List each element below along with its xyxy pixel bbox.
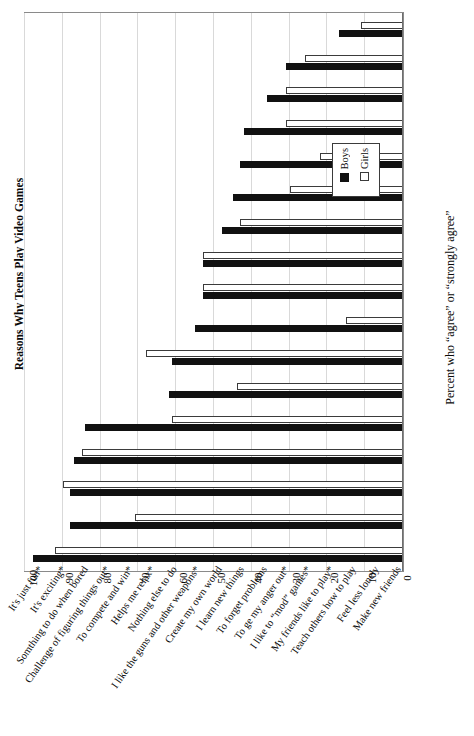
category-label-slot: Make new friends (383, 560, 405, 736)
bar-girls (172, 416, 403, 423)
bar-group (25, 440, 403, 473)
bar-boys (203, 260, 403, 267)
bar-group (25, 111, 403, 144)
bar-boys (339, 30, 403, 37)
bar-girls (346, 317, 403, 324)
legend-label-boys: Boys (339, 148, 350, 170)
bar-girls (286, 120, 403, 127)
bar-girls (240, 219, 403, 226)
bar-group (25, 276, 403, 309)
plot (24, 12, 404, 572)
legend-label-girls: Girls (359, 148, 370, 169)
chart-figure: Reasons Why Teens Play Video Games Perce… (0, 0, 474, 736)
bar-girls (135, 514, 403, 521)
bar-girls (286, 88, 403, 95)
bar-boys (172, 358, 403, 365)
bar-girls (63, 481, 403, 488)
plot-area (24, 12, 404, 572)
bar-boys (70, 522, 403, 529)
bar-boys (85, 424, 403, 431)
bar-group (25, 210, 403, 243)
bar-girls (55, 547, 403, 554)
value-axis-baseline (402, 13, 403, 571)
bar-boys (267, 96, 403, 103)
bar-group (25, 341, 403, 374)
bar-boys (70, 489, 403, 496)
bar-boys (195, 325, 403, 332)
bar-group (25, 505, 403, 538)
bar-groups (25, 13, 403, 571)
bar-girls (146, 350, 403, 357)
legend-item-girls: Girls (359, 148, 370, 194)
bar-girls (203, 252, 403, 259)
value-axis-title: Percent who “agree” or “strongly agree” (443, 163, 458, 453)
bar-group (25, 473, 403, 506)
bar-boys (286, 63, 403, 70)
legend: Boys Girls (332, 143, 380, 197)
legend-item-boys: Boys (339, 148, 350, 194)
bar-boys (203, 292, 403, 299)
legend-swatch-girls-icon (360, 172, 369, 181)
plot-rotation-wrapper (24, 12, 404, 572)
bar-group (25, 308, 403, 341)
bar-group (25, 46, 403, 79)
bar-girls (237, 383, 403, 390)
bar-girls (305, 55, 403, 62)
bar-girls (361, 22, 403, 29)
category-axis-labels: It's just fun*It's exciting*Somthing to … (25, 560, 405, 736)
bar-group (25, 374, 403, 407)
bar-boys (74, 457, 403, 464)
bar-group (25, 13, 403, 46)
bar-group (25, 243, 403, 276)
bar-girls (203, 284, 403, 291)
bar-group (25, 79, 403, 112)
bar-boys (222, 227, 403, 234)
bar-boys (169, 391, 403, 398)
bar-group (25, 407, 403, 440)
bar-girls (82, 449, 403, 456)
legend-swatch-boys-icon (340, 173, 349, 182)
bar-boys (244, 128, 403, 135)
